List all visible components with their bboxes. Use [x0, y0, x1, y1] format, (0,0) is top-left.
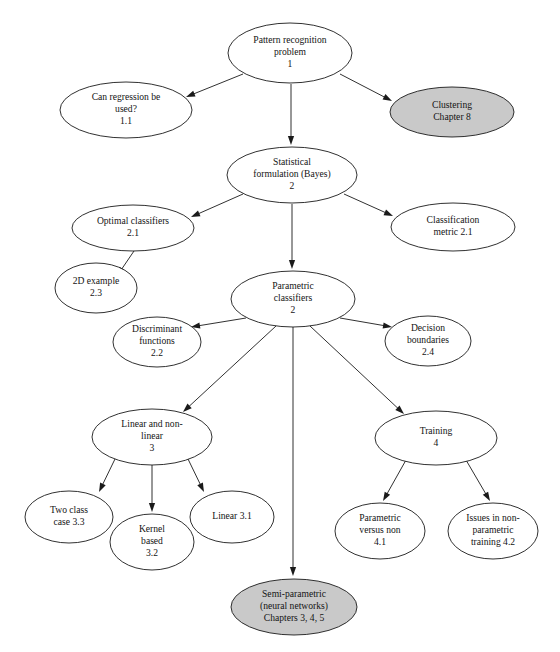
node-label-line: Classification	[427, 214, 480, 225]
node-label-line: Training	[420, 425, 453, 436]
node-label-line: 3.2	[146, 547, 158, 558]
node-label-line: 1.1	[120, 115, 132, 126]
node-label-line: 3	[150, 442, 155, 453]
node-parametric-classifiers[interactable]: Parametricclassifiers2	[231, 271, 355, 327]
node-clustering-chapter-8[interactable]: ClusteringChapter 8	[390, 87, 514, 137]
node-linear-and-non-linear[interactable]: Linear and non-linear3	[92, 409, 212, 465]
node-training[interactable]: Training4	[375, 411, 497, 465]
node-label-line: based	[141, 535, 163, 546]
node-label-line: Kernel	[139, 523, 165, 534]
node-issues-in-non-parametric-training[interactable]: Issues in non-parametrictraining 4.2	[448, 503, 538, 559]
arrow-head-icon	[383, 492, 390, 501]
node-label-line: Optimal classifiers	[97, 215, 169, 226]
node-label-line: 2	[291, 304, 296, 315]
edge-line	[188, 459, 201, 486]
node-classification-metric[interactable]: Classificationmetric 2.1	[391, 203, 515, 251]
node-label-line: Parametric	[272, 280, 314, 291]
edge-line	[466, 460, 486, 495]
node-label-line: 2.2	[151, 347, 163, 358]
node-two-class-case[interactable]: Two classcase 3.3	[25, 491, 113, 543]
node-label-line: metric 2.1	[434, 226, 473, 237]
edge-line	[386, 460, 406, 495]
edge-parametric-classifiers-to-discriminant-functions	[191, 318, 246, 329]
edge-linear-and-non-linear-to-kernel-based	[149, 465, 155, 512]
node-can-regression-be-used[interactable]: Can regression beused?1.1	[60, 82, 192, 138]
node-linear-3-1[interactable]: Linear 3.1	[190, 491, 274, 543]
arrow-head-icon	[289, 260, 295, 269]
edge-statistical-formulation-bayes-to-optimal-classifiers	[191, 194, 243, 217]
node-label-line: 2D example	[73, 275, 120, 286]
node-label-line: parametric	[472, 524, 513, 535]
edge-pattern-recognition-problem-to-can-regression-be-used	[186, 74, 243, 97]
node-label-line: formulation (Bayes)	[253, 168, 331, 180]
node-decision-boundaries[interactable]: Decisionboundaries2.4	[385, 316, 471, 366]
node-label-line: versus non	[359, 524, 401, 535]
arrow-head-icon	[384, 209, 393, 216]
pattern-recognition-tree-diagram: Pattern recognitionproblem1Can regressio…	[0, 0, 560, 652]
node-label-line: boundaries	[407, 334, 449, 345]
node-label-line: 2	[290, 180, 295, 191]
node-label-line: Chapter 8	[433, 111, 471, 122]
node-label-line: Semi-parametric	[262, 588, 326, 599]
edge-linear-and-non-linear-to-linear-3-1	[188, 459, 204, 492]
edge-line	[340, 74, 386, 98]
arrow-head-icon	[99, 483, 106, 492]
node-parametric-versus-non[interactable]: Parametricversus non4.1	[335, 503, 425, 559]
node-label-line: Statistical	[273, 156, 311, 167]
arrow-head-icon	[191, 211, 200, 217]
node-semi-parametric-neural-networks[interactable]: Semi-parametric(neural networks)Chapters…	[231, 579, 357, 635]
edge-parametric-classifiers-to-decision-boundaries	[340, 318, 392, 329]
edge-pattern-recognition-problem-to-clustering-chapter-8	[340, 74, 392, 101]
node-label-line: Linear and non-	[121, 418, 182, 429]
arrow-head-icon	[186, 91, 196, 97]
diagram-page: Pattern recognitionproblem1Can regressio…	[0, 0, 560, 652]
node-label-line: Clustering	[432, 99, 472, 110]
edge-line	[121, 251, 134, 270]
node-label-line: Can regression be	[92, 91, 161, 102]
node-2d-example[interactable]: 2D example2.3	[55, 263, 137, 313]
arrow-head-icon	[383, 94, 392, 101]
edge-pattern-recognition-problem-to-statistical-formulation-bayes	[288, 84, 294, 145]
arrow-head-icon	[288, 136, 294, 145]
arrow-head-icon	[483, 492, 490, 501]
node-label-line: 4	[434, 437, 439, 448]
edge-line	[340, 318, 385, 326]
node-pattern-recognition-problem[interactable]: Pattern recognitionproblem1	[228, 23, 352, 83]
edge-line	[188, 326, 276, 407]
node-label-line: 1	[288, 58, 293, 69]
node-statistical-formulation-bayes[interactable]: Statisticalformulation (Bayes)2	[227, 147, 357, 203]
edge-line	[344, 194, 387, 213]
arrow-head-icon	[383, 322, 392, 328]
node-label-line: case 3.3	[54, 516, 85, 527]
node-label-line: training 4.2	[471, 536, 515, 547]
node-label-line: linear	[141, 430, 164, 441]
node-label-line: Linear 3.1	[212, 510, 252, 521]
node-label-line: Pattern recognition	[253, 34, 326, 45]
node-label-line: 2.1	[127, 227, 139, 238]
node-label-line: Discriminant	[132, 323, 182, 334]
edge-line	[102, 459, 115, 486]
node-label-line: problem	[274, 46, 307, 57]
node-label-line: Issues in non-	[466, 512, 519, 523]
edge-linear-and-non-linear-to-two-class-case	[99, 459, 115, 492]
node-label-line: Parametric	[359, 512, 401, 523]
node-label-line: Decision	[411, 322, 445, 333]
node-kernel-based[interactable]: Kernelbased3.2	[110, 514, 194, 570]
nodes-layer: Pattern recognitionproblem1Can regressio…	[25, 23, 538, 635]
edge-parametric-classifiers-to-semi-parametric-neural-networks	[290, 327, 296, 576]
arrow-head-icon	[149, 503, 155, 512]
node-label-line: 2.4	[422, 346, 434, 357]
node-label-line: Chapters 3, 4, 5	[264, 612, 325, 623]
edge-line	[198, 318, 246, 326]
node-label-line: (neural networks)	[260, 600, 328, 612]
node-label-line: 2.3	[90, 287, 102, 298]
node-discriminant-functions[interactable]: Discriminantfunctions2.2	[113, 317, 201, 367]
node-optimal-classifiers[interactable]: Optimal classifiers2.1	[72, 205, 194, 251]
edge-statistical-formulation-bayes-to-classification-metric	[344, 194, 393, 216]
edge-training-to-parametric-versus-non	[383, 460, 406, 501]
edge-statistical-formulation-bayes-to-parametric-classifiers	[289, 204, 295, 269]
edge-line	[197, 194, 243, 214]
node-label-line: 4.1	[374, 536, 386, 547]
node-label-line: classifiers	[274, 292, 313, 303]
node-label-line: Two class	[50, 504, 88, 515]
